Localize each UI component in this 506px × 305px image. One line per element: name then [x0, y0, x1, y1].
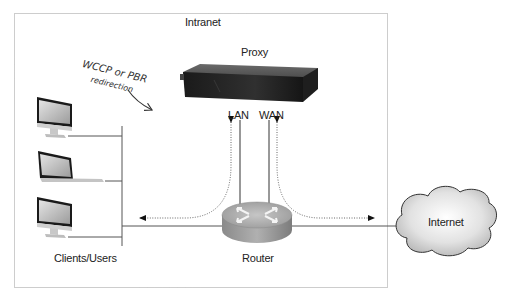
proxy-server-icon[interactable]	[180, 64, 318, 102]
internet-label: Internet	[428, 216, 464, 228]
intranet-label: Intranet	[185, 16, 221, 28]
client-desktop-2-icon[interactable]	[37, 197, 72, 238]
proxy-label: Proxy	[241, 46, 268, 58]
client-laptop-icon[interactable]	[38, 151, 104, 182]
intranet-zone	[15, 14, 388, 288]
router-icon[interactable]	[222, 202, 292, 243]
traffic-flow-left	[140, 122, 231, 218]
lan-port-label: LAN	[228, 109, 249, 121]
router-label: Router	[242, 252, 274, 264]
wan-port-label: WAN	[259, 109, 284, 121]
client-desktop-1-icon[interactable]	[37, 97, 72, 138]
client-bus	[68, 126, 225, 246]
proxy-links	[240, 120, 269, 210]
clients-label: Clients/Users	[54, 252, 117, 264]
traffic-flow-right	[277, 122, 374, 218]
